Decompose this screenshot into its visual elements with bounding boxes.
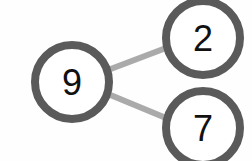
connector-whole-to-part-2	[108, 94, 166, 118]
part-1-value: 2	[193, 18, 213, 59]
part-node-1: 2	[166, 1, 240, 75]
part-2-value: 7	[193, 108, 213, 149]
part-node-2: 7	[166, 91, 240, 161]
connector-whole-to-part-1	[108, 48, 166, 70]
diagram-canvas: 9 2 7	[0, 0, 252, 161]
number-bond-diagram: 9 2 7	[0, 0, 252, 161]
whole-node: 9	[35, 45, 109, 119]
whole-value: 9	[62, 62, 82, 103]
